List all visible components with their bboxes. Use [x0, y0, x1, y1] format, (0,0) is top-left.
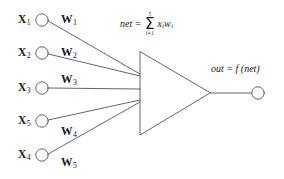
input-label-3: X3	[18, 82, 31, 95]
summation-lower-limit: i=1	[146, 31, 154, 37]
input-node-circle-1	[36, 14, 48, 26]
summation-operator: 5 Σ i=1	[145, 12, 154, 37]
input-node-circle-5	[36, 149, 48, 161]
input-node-circle-2	[36, 47, 48, 59]
weight-label-1: W1	[61, 14, 77, 27]
neuron-diagram: X1 X2 X3 X5 X4 W1 W2 W3 W4 W5 net = 5 Σ …	[0, 0, 284, 179]
input-label-1: X1	[18, 14, 31, 27]
output-label: out = f (net)	[211, 64, 260, 74]
input-node-circle-3	[36, 82, 48, 94]
weight-label-4: W4	[61, 126, 77, 139]
connection-line-3	[48, 88, 140, 89]
input-label-2: X2	[18, 47, 31, 60]
net-formula-term: xiwi	[157, 19, 172, 30]
net-formula: net = 5 Σ i=1 xiwi	[120, 12, 173, 37]
weight-label-5: W5	[61, 157, 77, 170]
weight-label-3: W3	[61, 74, 77, 87]
neuron-body-triangle	[140, 52, 210, 135]
sigma-icon: Σ	[145, 18, 154, 31]
weight-label-2: W2	[61, 47, 77, 60]
net-formula-lhs: net	[120, 19, 132, 29]
input-node-circle-4	[36, 115, 48, 127]
output-node-circle	[252, 87, 264, 99]
input-label-5: X4	[18, 149, 31, 162]
input-label-4: X5	[18, 115, 31, 128]
net-formula-equals: =	[135, 19, 142, 29]
